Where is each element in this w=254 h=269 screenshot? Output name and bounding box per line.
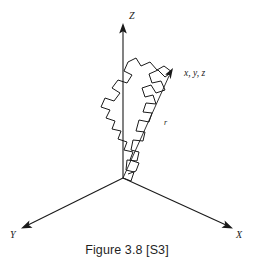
y-axis — [21, 178, 123, 229]
x-axis — [123, 178, 233, 229]
y-axis-label: Y — [10, 229, 17, 240]
z-axis-label: Z — [129, 10, 135, 21]
x-axis-line — [123, 178, 226, 225]
x-axis-arrowhead — [222, 221, 234, 229]
z-axis — [119, 23, 127, 178]
figure-caption: Figure 3.8 [S3] — [0, 243, 254, 257]
random-walk-chain — [101, 58, 172, 181]
coordinate-diagram: Z X Y x, y, z r — [0, 0, 254, 244]
y-axis-arrowhead — [21, 221, 33, 229]
figure-container: Z X Y x, y, z r Figure 3.8 [S3] — [0, 0, 254, 269]
y-axis-line — [28, 178, 123, 225]
endpoint-coordinate-label: x, y, z — [183, 68, 205, 78]
r-vector-label: r — [164, 118, 168, 127]
x-axis-label: X — [235, 229, 243, 240]
